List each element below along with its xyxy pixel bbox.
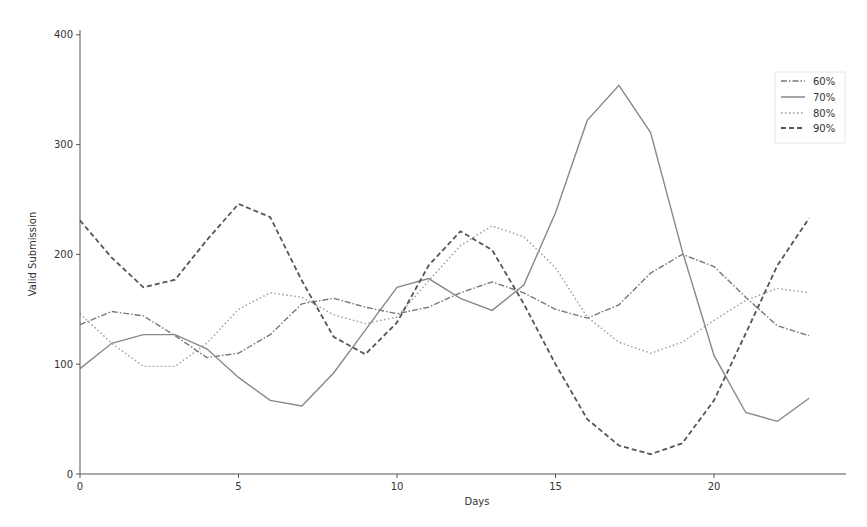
y-tick: 400 bbox=[54, 29, 80, 40]
legend-label: 70% bbox=[813, 92, 835, 103]
x-tick: 5 bbox=[235, 474, 241, 492]
y-tick-label: 400 bbox=[54, 29, 73, 40]
x-tick-label: 5 bbox=[235, 481, 241, 492]
legend-label: 60% bbox=[813, 76, 835, 87]
x-axis-ticks: 0 5 10 15 20 bbox=[77, 474, 721, 492]
y-axis-ticks: 0 100 200 300 400 bbox=[54, 29, 80, 480]
plot-area bbox=[80, 85, 809, 454]
x-tick-label: 15 bbox=[549, 481, 562, 492]
x-tick: 0 bbox=[77, 474, 83, 492]
legend-label: 90% bbox=[813, 123, 835, 134]
y-tick-label: 0 bbox=[67, 469, 73, 480]
series-line-90 bbox=[80, 204, 809, 454]
x-tick: 15 bbox=[549, 474, 562, 492]
legend: 60% 70% 80% 90% bbox=[775, 72, 845, 143]
series-line-60 bbox=[80, 254, 809, 357]
line-chart: 0 100 200 300 400 0 5 10 bbox=[0, 0, 867, 527]
y-axis-label: Valid Submission bbox=[27, 212, 38, 296]
y-tick: 100 bbox=[54, 359, 80, 370]
y-tick: 300 bbox=[54, 139, 80, 150]
y-tick-label: 200 bbox=[54, 249, 73, 260]
y-tick-label: 100 bbox=[54, 359, 73, 370]
x-axis-label: Days bbox=[465, 496, 490, 507]
legend-label: 80% bbox=[813, 108, 835, 119]
x-tick: 20 bbox=[708, 474, 721, 492]
x-tick-label: 0 bbox=[77, 481, 83, 492]
x-tick-label: 10 bbox=[391, 481, 404, 492]
y-tick: 0 bbox=[67, 469, 80, 480]
x-tick-label: 20 bbox=[708, 481, 721, 492]
series-line-70 bbox=[80, 85, 809, 421]
y-tick: 200 bbox=[54, 249, 80, 260]
x-tick: 10 bbox=[391, 474, 404, 492]
y-tick-label: 300 bbox=[54, 139, 73, 150]
